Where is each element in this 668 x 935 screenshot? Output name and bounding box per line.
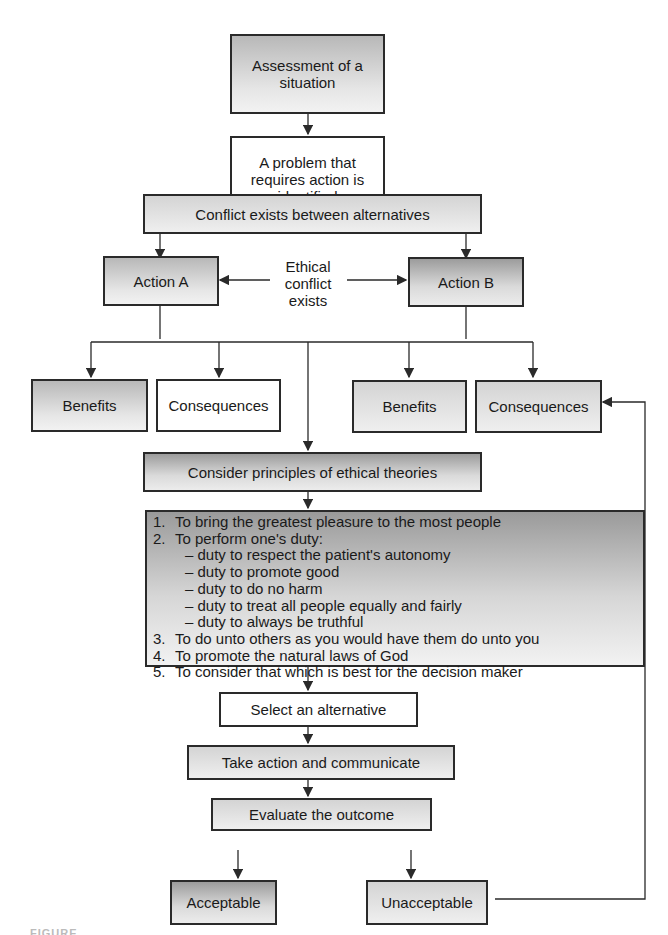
node-action-b: Action B (408, 257, 524, 307)
ethical-conflict-label: Ethical conflict exists (272, 258, 344, 309)
figure-caption: FIGURE (30, 927, 78, 935)
node-label: Unacceptable (381, 894, 473, 911)
principle-item: 3.To do unto others as you would have th… (153, 631, 643, 648)
node-acceptable: Acceptable (170, 880, 277, 925)
node-label: Action A (133, 273, 188, 290)
node-label: Benefits (62, 397, 116, 414)
node-unacceptable: Unacceptable (366, 880, 488, 925)
principle-item: 4.To promote the natural laws of God (153, 648, 643, 665)
node-label: Consequences (488, 398, 588, 415)
node-label: Evaluate the outcome (249, 806, 394, 823)
node-action-a: Action A (103, 256, 219, 306)
node-label: Conflict exists between alternatives (195, 206, 429, 223)
node-label: Benefits (382, 398, 436, 415)
node-label: Select an alternative (251, 701, 387, 718)
node-consider-principles: Consider principles of ethical theories (143, 452, 482, 492)
node-label: Consequences (168, 397, 268, 414)
node-label: Take action and communicate (222, 754, 420, 771)
node-label: Acceptable (186, 894, 260, 911)
node-label: Consider principles of ethical theories (188, 464, 437, 481)
principle-item: 1.To bring the greatest pleasure to the … (153, 514, 643, 531)
principles-list: 1.To bring the greatest pleasure to the … (145, 510, 645, 667)
duty-item: – duty to treat all people equally and f… (153, 598, 643, 615)
duty-item: – duty to promote good (153, 564, 643, 581)
principle-item: 2.To perform one's duty: (153, 531, 643, 548)
duty-item: – duty to respect the patient's autonomy (153, 547, 643, 564)
node-take-action: Take action and communicate (187, 745, 455, 780)
node-consequences-b: Consequences (475, 380, 602, 433)
duty-item: – duty to do no harm (153, 581, 643, 598)
node-select-alternative: Select an alternative (219, 692, 418, 727)
node-label: Assessment of a situation (243, 57, 373, 91)
node-assessment: Assessment of a situation (230, 34, 385, 114)
node-consequences-a: Consequences (156, 379, 281, 432)
principle-item: 5.To consider that which is best for the… (153, 664, 643, 681)
node-label: Action B (438, 274, 494, 291)
node-conflict: Conflict exists between alternatives (143, 194, 482, 234)
node-benefits-b: Benefits (352, 380, 467, 433)
node-benefits-a: Benefits (31, 379, 148, 432)
duty-item: – duty to always be truthful (153, 614, 643, 631)
node-evaluate-outcome: Evaluate the outcome (211, 798, 432, 831)
